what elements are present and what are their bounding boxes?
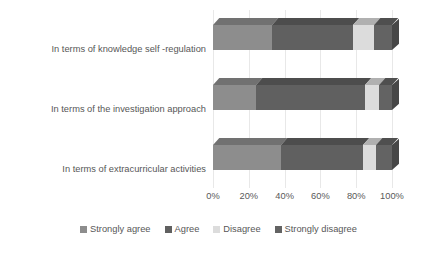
legend-item[interactable]: Agree <box>165 224 200 234</box>
bar-segment-top-face <box>213 18 278 25</box>
bar-segment-top-face <box>272 18 359 25</box>
bar-front-face <box>213 145 392 170</box>
bar-segment[interactable] <box>376 145 392 170</box>
legend-swatch-icon <box>80 226 87 233</box>
legend-swatch-icon <box>275 226 282 233</box>
plot-area <box>213 10 392 188</box>
bar-segment[interactable] <box>374 25 392 50</box>
bar-segment[interactable] <box>365 85 379 110</box>
bar-front-face <box>213 25 392 50</box>
chart-legend: Strongly agreeAgreeDisagreeStrongly disa… <box>0 224 437 234</box>
x-tick-label: 40% <box>275 191 294 201</box>
bar-segment[interactable] <box>213 145 281 170</box>
category-label-2: In terms of extracurricular activities <box>1 164 206 174</box>
legend-item[interactable]: Strongly agree <box>80 224 150 234</box>
legend-label: Strongly disagree <box>285 224 357 234</box>
x-tick-label: 80% <box>347 191 366 201</box>
legend-item[interactable]: Strongly disagree <box>275 224 357 234</box>
bar-segment[interactable] <box>272 25 353 50</box>
bar-front-face <box>213 85 392 110</box>
bar-row <box>213 138 392 170</box>
legend-swatch-icon <box>165 226 172 233</box>
bar-right-face <box>392 79 399 110</box>
x-axis: 0%20%40%60%80%100% <box>213 191 399 205</box>
x-tick-label: 60% <box>311 191 330 201</box>
bar-segment[interactable] <box>256 85 365 110</box>
bar-row <box>213 18 392 50</box>
category-label-0: In terms of knowledge self -regulation <box>1 44 206 54</box>
bar-segment-top-face <box>213 138 287 145</box>
category-axis: In terms of knowledge self -regulation I… <box>0 10 206 188</box>
bar-segment[interactable] <box>213 25 272 50</box>
x-tick-label: 20% <box>239 191 258 201</box>
bar-right-face <box>392 19 399 50</box>
x-tick-label: 100% <box>380 191 404 201</box>
bar-segment-top-face <box>256 78 371 85</box>
bar-segment[interactable] <box>353 25 374 50</box>
legend-swatch-icon <box>213 226 220 233</box>
legend-label: Disagree <box>223 224 260 234</box>
x-tick-label: 0% <box>206 191 219 201</box>
bar-segment-top-face <box>213 78 262 85</box>
stacked-bar-chart: In terms of knowledge self -regulation I… <box>0 0 437 259</box>
legend-label: Strongly agree <box>90 224 150 234</box>
bar-segment[interactable] <box>213 85 256 110</box>
legend-item[interactable]: Disagree <box>213 224 260 234</box>
bar-segment[interactable] <box>363 145 376 170</box>
bar-segment[interactable] <box>281 145 363 170</box>
bar-segment[interactable] <box>379 85 392 110</box>
bar-row <box>213 78 392 110</box>
bar-segment-top-face <box>281 138 370 145</box>
bar-right-face <box>392 139 399 170</box>
legend-label: Agree <box>175 224 200 234</box>
category-label-1: In terms of the investigation approach <box>1 104 206 114</box>
